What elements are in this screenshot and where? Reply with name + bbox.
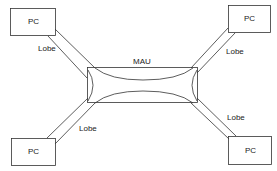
pc-top-right-label: PC xyxy=(244,15,255,23)
pc-top-left-label: PC xyxy=(28,18,39,26)
mau-ring-left xyxy=(88,70,93,101)
mau-ring-right xyxy=(192,70,197,101)
mau-ring-bottom xyxy=(95,91,193,103)
lobe-bottom-left-label: Lobe xyxy=(79,125,97,133)
lobe-top-left-label: Lobe xyxy=(38,45,56,53)
lobe-bottom-left xyxy=(47,98,95,144)
pc-bottom-left-label: PC xyxy=(28,148,39,156)
pc-bottom-right-label: PC xyxy=(245,147,256,155)
lobe-bottom-right-label: Lobe xyxy=(227,114,245,122)
diagram-canvas xyxy=(0,0,277,171)
mau-ring-top xyxy=(95,68,193,80)
lobe-top-right-label: Lobe xyxy=(226,48,244,56)
mau-label: MAU xyxy=(133,58,151,66)
